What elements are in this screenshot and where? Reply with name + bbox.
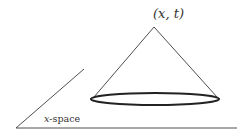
apex-label: (x, t) (153, 6, 184, 21)
cone-right-edge (154, 27, 217, 97)
cone-left-edge (94, 27, 154, 97)
space-label-suffix: -space (49, 113, 80, 124)
space-label: x-space (44, 113, 80, 124)
cone-base-ellipse (91, 93, 219, 105)
light-cone-diagram (0, 0, 248, 138)
